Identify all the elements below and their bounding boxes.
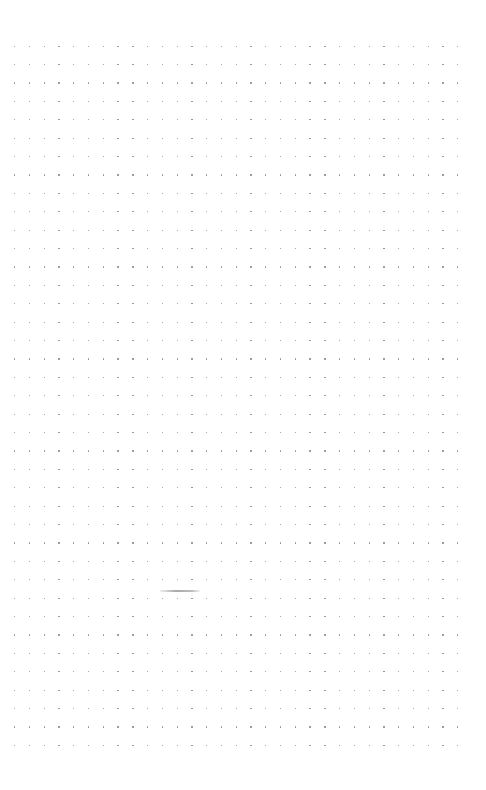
grid-dot bbox=[280, 708, 281, 709]
grid-dot bbox=[442, 358, 443, 359]
grid-dot bbox=[324, 708, 325, 709]
grid-dot bbox=[398, 230, 399, 231]
grid-dot bbox=[442, 174, 443, 175]
grid-dot bbox=[132, 414, 133, 415]
grid-dot bbox=[191, 616, 192, 617]
grid-dot bbox=[280, 653, 281, 654]
grid-dot bbox=[236, 690, 237, 691]
grid-dot bbox=[295, 469, 296, 470]
grid-dot bbox=[177, 193, 178, 194]
grid-dot bbox=[398, 64, 399, 65]
grid-dot bbox=[29, 414, 30, 415]
grid-dot bbox=[58, 598, 59, 599]
grid-dot bbox=[295, 524, 296, 525]
grid-dot bbox=[383, 506, 384, 507]
grid-dot bbox=[295, 46, 296, 47]
grid-dot bbox=[177, 726, 178, 727]
grid-dot bbox=[73, 598, 74, 599]
grid-dot bbox=[295, 708, 296, 709]
grid-dot bbox=[457, 248, 458, 249]
grid-dot bbox=[398, 690, 399, 691]
grid-dot bbox=[73, 230, 74, 231]
grid-dot bbox=[103, 395, 104, 396]
grid-dot bbox=[250, 653, 251, 654]
grid-dot bbox=[309, 395, 310, 396]
grid-dot bbox=[413, 193, 414, 194]
grid-dot bbox=[44, 708, 45, 709]
grid-dot bbox=[295, 266, 296, 267]
grid-dot bbox=[354, 469, 355, 470]
grid-dot bbox=[339, 726, 340, 727]
grid-dot bbox=[369, 561, 370, 562]
grid-dot bbox=[14, 46, 15, 47]
grid-dot bbox=[191, 46, 192, 47]
grid-dot bbox=[44, 119, 45, 120]
grid-dot bbox=[413, 726, 414, 727]
grid-dot bbox=[280, 414, 281, 415]
grid-dot bbox=[221, 634, 222, 635]
grid-dot bbox=[309, 377, 310, 378]
grid-dot bbox=[236, 119, 237, 120]
grid-dot bbox=[236, 211, 237, 212]
grid-dot bbox=[324, 46, 325, 47]
grid-dot bbox=[147, 653, 148, 654]
grid-dot bbox=[457, 395, 458, 396]
grid-dot bbox=[58, 708, 59, 709]
grid-dot bbox=[236, 450, 237, 451]
grid-dot bbox=[236, 616, 237, 617]
grid-dot bbox=[383, 248, 384, 249]
grid-dot bbox=[383, 285, 384, 286]
grid-dot bbox=[29, 138, 30, 139]
grid-dot bbox=[265, 285, 266, 286]
grid-dot bbox=[383, 101, 384, 102]
grid-dot bbox=[236, 322, 237, 323]
grid-dot bbox=[162, 285, 163, 286]
grid-dot bbox=[117, 138, 118, 139]
grid-dot bbox=[14, 579, 15, 580]
grid-dot bbox=[206, 414, 207, 415]
grid-dot bbox=[428, 156, 429, 157]
grid-dot bbox=[413, 598, 414, 599]
grid-dot bbox=[309, 211, 310, 212]
grid-dot bbox=[58, 358, 59, 359]
grid-dot bbox=[177, 138, 178, 139]
grid-dot bbox=[206, 450, 207, 451]
grid-dot bbox=[191, 174, 192, 175]
grid-dot bbox=[354, 230, 355, 231]
grid-dot bbox=[339, 193, 340, 194]
grid-dot bbox=[383, 708, 384, 709]
grid-dot bbox=[58, 450, 59, 451]
grid-dot bbox=[14, 745, 15, 746]
grid-dot bbox=[457, 634, 458, 635]
grid-dot bbox=[162, 322, 163, 323]
grid-dot bbox=[428, 230, 429, 231]
grid-dot bbox=[162, 524, 163, 525]
grid-dot bbox=[73, 579, 74, 580]
grid-dot bbox=[442, 450, 443, 451]
grid-dot bbox=[206, 101, 207, 102]
grid-dot bbox=[413, 524, 414, 525]
grid-dot bbox=[250, 671, 251, 672]
grid-dot bbox=[162, 469, 163, 470]
grid-dot bbox=[162, 598, 163, 599]
grid-dot bbox=[309, 414, 310, 415]
grid-dot bbox=[324, 82, 325, 83]
grid-dot bbox=[369, 82, 370, 83]
grid-dot bbox=[14, 690, 15, 691]
grid-dot bbox=[117, 322, 118, 323]
grid-dot bbox=[206, 690, 207, 691]
grid-dot bbox=[383, 469, 384, 470]
grid-dot bbox=[250, 174, 251, 175]
grid-dot bbox=[191, 322, 192, 323]
grid-dot bbox=[428, 616, 429, 617]
grid-dot bbox=[117, 285, 118, 286]
grid-dot bbox=[29, 377, 30, 378]
grid-dot bbox=[73, 377, 74, 378]
grid-dot bbox=[265, 248, 266, 249]
grid-dot bbox=[309, 193, 310, 194]
grid-dot bbox=[413, 138, 414, 139]
grid-dot bbox=[250, 303, 251, 304]
grid-dot bbox=[206, 358, 207, 359]
grid-dot bbox=[58, 506, 59, 507]
grid-dot bbox=[324, 690, 325, 691]
